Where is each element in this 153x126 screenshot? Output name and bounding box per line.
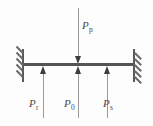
force-line-reaction-3 (107, 70, 108, 118)
force-line-applied-load (78, 8, 79, 60)
label-reaction-2: P0 (64, 98, 74, 109)
label-applied-load-symbol: P (82, 19, 89, 31)
force-line-reaction-2 (78, 70, 79, 118)
label-reaction-1: Pr (29, 98, 38, 109)
label-reaction-3: Ps (103, 98, 113, 109)
label-reaction-3-subscript: s (110, 103, 113, 112)
label-reaction-2-symbol: P (64, 97, 71, 109)
label-reaction-3-symbol: P (103, 97, 110, 109)
label-applied-load: Pp (82, 20, 92, 31)
arrow-head-reaction-2-up (75, 66, 81, 74)
label-reaction-1-symbol: P (29, 97, 36, 109)
force-line-reaction-1 (43, 70, 44, 118)
arrow-head-reaction-1-up (40, 66, 46, 74)
label-reaction-1-subscript: r (36, 103, 39, 112)
beam-diagram: Pp Pr P0 Ps (0, 0, 153, 126)
label-reaction-2-subscript: 0 (71, 103, 75, 112)
label-applied-load-subscript: p (89, 25, 93, 34)
arrow-head-reaction-3-up (104, 66, 110, 74)
